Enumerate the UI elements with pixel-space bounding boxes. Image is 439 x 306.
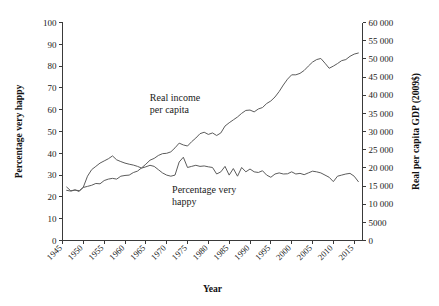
- chart-canvas: 01020304050607080901000500010 00015 0002…: [0, 0, 439, 306]
- y-axis-left-tick-label: 30: [48, 170, 58, 180]
- x-axis-tick-label: 2000: [274, 243, 293, 262]
- y-axis-left-title: Percentage very happy: [13, 84, 24, 178]
- x-axis-tick-label: 2010: [316, 243, 335, 262]
- y-axis-left-tick-label: 50: [48, 127, 58, 137]
- series-annotations: Real incomeper capitaPercentage veryhapp…: [150, 92, 236, 207]
- x-axis-tick-label: 2005: [295, 243, 314, 262]
- x-axis-tick-label: 1975: [170, 243, 189, 262]
- y-axis-right-tick-label: 30 000: [369, 127, 394, 137]
- x-axis-title: Year: [203, 283, 223, 294]
- y-axis-right-tick-label: 40 000: [369, 90, 394, 100]
- y-axis-right-tick-label: 55 000: [369, 36, 394, 46]
- y-axis-left-tick-label: 100: [43, 18, 57, 28]
- x-axis-tick-label: 1965: [128, 243, 147, 262]
- chart-figure: 01020304050607080901000500010 00015 0002…: [0, 0, 439, 306]
- y-axis-left-tick-label: 90: [48, 40, 58, 50]
- y-axis-right-tick-label: 50 000: [369, 54, 394, 64]
- y-axis-right-tick-label: 5000: [369, 218, 388, 228]
- series-line-real-income-per-capita: [67, 53, 359, 191]
- axes: [63, 23, 363, 241]
- data-series: [67, 53, 359, 191]
- x-axis-tick-label: 1990: [232, 243, 251, 262]
- y-axis-right-tick-label: 10 000: [369, 199, 394, 209]
- annotation-label: per capita: [150, 104, 190, 115]
- y-axis-right-tick-label: 45 000: [369, 72, 394, 82]
- y-axis-right-tick-label: 60 000: [369, 18, 394, 28]
- y-axis-left-tick-label: 20: [48, 192, 58, 202]
- tick-labels: 01020304050607080901000500010 00015 0002…: [43, 18, 394, 262]
- x-axis-tick-label: 1980: [191, 243, 210, 262]
- y-axis-left-tick-label: 60: [48, 105, 58, 115]
- y-axis-right-tick-label: 35 000: [369, 109, 394, 119]
- x-axis-tick-label: 2015: [336, 243, 355, 262]
- x-axis-tick-label: 1945: [45, 243, 64, 262]
- x-axis-tick-label: 1955: [86, 243, 105, 262]
- annotation-label: Percentage very: [172, 184, 236, 195]
- y-axis-left-tick-label: 10: [48, 214, 58, 224]
- y-axis-left-tick-label: 70: [48, 83, 58, 93]
- y-axis-right-title: Real per capita GDP (2009$): [410, 73, 422, 190]
- x-axis-tick-label: 1960: [107, 243, 126, 262]
- x-axis-tick-label: 1985: [211, 243, 230, 262]
- y-axis-right-tick-label: 25 000: [369, 145, 394, 155]
- y-axis-left-tick-label: 80: [48, 61, 58, 71]
- x-axis-tick-label: 1950: [66, 243, 85, 262]
- annotation-label: Real income: [150, 92, 201, 103]
- y-axis-right-tick-label: 15 000: [369, 181, 394, 191]
- annotation-label: happy: [172, 196, 196, 207]
- y-axis-right-tick-label: 20 000: [369, 163, 394, 173]
- y-axis-left-tick-label: 40: [48, 149, 58, 159]
- x-axis-tick-label: 1995: [253, 243, 272, 262]
- y-axis-right-tick-label: 0: [369, 236, 374, 246]
- x-axis-tick-label: 1970: [149, 243, 168, 262]
